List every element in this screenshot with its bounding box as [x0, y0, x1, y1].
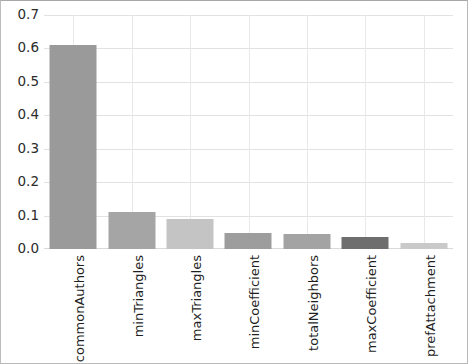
x-axis-tick-label: maxCoefficient [365, 255, 378, 353]
bar-slot [336, 15, 394, 249]
x-axis-label-slot: maxTriangles [161, 253, 219, 361]
y-axis-tick-label: 0.0 [3, 242, 39, 256]
y-axis-tick-label: 0.2 [3, 175, 39, 189]
bar-slot [44, 15, 102, 249]
bar-slot [219, 15, 277, 249]
bar[interactable] [108, 212, 155, 249]
x-axis-tick-label: prefAttachment [424, 255, 437, 357]
x-axis-labels: commonAuthorsminTrianglesmaxTrianglesmin… [44, 253, 453, 361]
x-axis-tick-label: commonAuthors [73, 255, 86, 362]
bar[interactable] [283, 234, 330, 249]
bar[interactable] [400, 243, 447, 249]
y-axis-tick-label: 0.5 [3, 75, 39, 89]
x-axis-label-slot: minCoefficient [219, 253, 277, 361]
bar-slot [102, 15, 160, 249]
x-axis-label-slot: maxCoefficient [336, 253, 394, 361]
x-axis-tick-label: minCoefficient [248, 255, 261, 349]
plot-area [44, 15, 453, 249]
x-axis-label-slot: commonAuthors [44, 253, 102, 361]
y-axis-tick-label: 0.7 [3, 8, 39, 22]
x-axis-tick-label: maxTriangles [190, 255, 203, 341]
y-axis: 0.00.10.20.30.40.50.60.7 [1, 15, 39, 249]
bar[interactable] [167, 219, 214, 249]
bar-chart: 0.00.10.20.30.40.50.60.7 commonAuthorsmi… [0, 0, 468, 364]
y-axis-tick-label: 0.3 [3, 142, 39, 156]
bar-slot [395, 15, 453, 249]
x-axis-label-slot: prefAttachment [395, 253, 453, 361]
bar-slot [278, 15, 336, 249]
x-axis-tick-label: minTriangles [132, 255, 145, 337]
x-axis-tick-label: totalNeighbors [307, 255, 320, 351]
bar[interactable] [50, 45, 97, 249]
y-axis-tick-label: 0.1 [3, 209, 39, 223]
y-axis-tick-label: 0.6 [3, 42, 39, 56]
bar[interactable] [225, 233, 272, 249]
x-axis-label-slot: totalNeighbors [278, 253, 336, 361]
bar-slot [161, 15, 219, 249]
y-axis-tick-label: 0.4 [3, 109, 39, 123]
bar[interactable] [342, 237, 389, 249]
x-axis-label-slot: minTriangles [102, 253, 160, 361]
